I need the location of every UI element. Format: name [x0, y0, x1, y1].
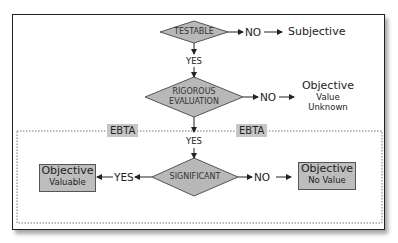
outcome-subjective: Subjective: [288, 26, 345, 37]
significant-no-label: NO: [254, 172, 270, 183]
outcome-no-value-line1: Objective: [299, 163, 355, 176]
ebta-label-left: EBTA: [107, 124, 138, 137]
outcome-no-value-line2: No Value: [299, 176, 355, 185]
rigorous-label-line2: EVALUATION: [150, 98, 238, 106]
outcome-no-value-box: Objective No Value: [298, 162, 356, 190]
outcome-valuable-line1: Objective: [40, 165, 95, 178]
rigorous-label-line1: RIGOROUS: [150, 88, 238, 96]
rigorous-yes-label: YES: [186, 137, 202, 146]
outcome-unknown-line1: Objective: [298, 80, 358, 91]
testable-yes-label: YES: [186, 57, 202, 66]
significant-label: SIGNIFICANT: [152, 173, 238, 181]
rigorous-no-label: NO: [260, 92, 276, 103]
outcome-valuable-line2: Valuable: [40, 178, 95, 187]
ebta-label-right: EBTA: [236, 124, 267, 137]
testable-label: TESTABLE: [160, 28, 228, 36]
outcome-valuable-box: Objective Valuable: [39, 164, 96, 192]
outcome-unknown-line3: Unknown: [298, 103, 358, 112]
significant-yes-label: YES: [114, 172, 134, 183]
outcome-unknown-line2: Value: [298, 93, 358, 102]
testable-no-label: NO: [245, 27, 261, 38]
